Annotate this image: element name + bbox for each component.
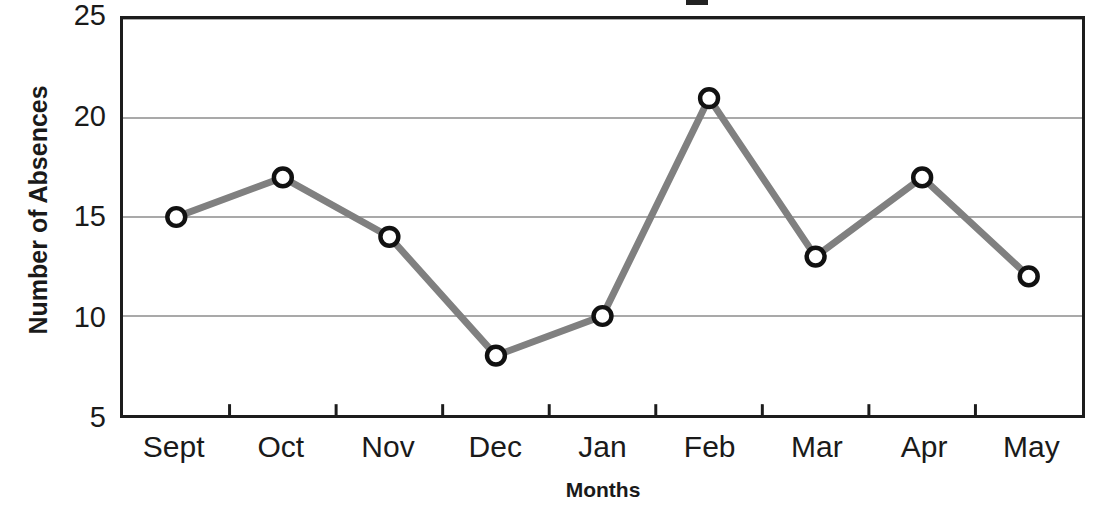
x-tick-label-may: May <box>951 430 1095 464</box>
x-axis-title: Months <box>120 478 1086 502</box>
x-axis-tick-labels: SeptOctNovDecJanFebMarAprMay <box>0 0 1095 516</box>
line-chart-figure: Number of Absences 510152025 SeptOctNovD… <box>0 0 1095 516</box>
